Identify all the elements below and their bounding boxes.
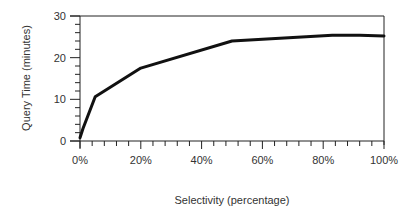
y-tick-label: 10 <box>54 93 66 105</box>
x-tick-label: 100% <box>370 154 398 166</box>
data-line <box>80 35 384 138</box>
y-tick-label: 30 <box>54 10 66 22</box>
x-tick-label: 60% <box>251 154 273 166</box>
x-tick-label: 0% <box>72 154 88 166</box>
y-axis-title: Query Time (minutes) <box>20 25 32 131</box>
x-tick-label: 80% <box>312 154 334 166</box>
y-axis: 0102030 <box>54 10 80 147</box>
x-axis: 0%20%40%60%80%100% <box>72 141 398 166</box>
y-tick-label: 20 <box>54 52 66 64</box>
x-axis-title: Selectivity (percentage) <box>175 194 290 206</box>
y-tick-label: 0 <box>60 135 66 147</box>
x-tick-label: 40% <box>191 154 213 166</box>
line-chart: 0102030 0%20%40%60%80%100% Query Time (m… <box>0 0 418 219</box>
x-tick-label: 20% <box>130 154 152 166</box>
